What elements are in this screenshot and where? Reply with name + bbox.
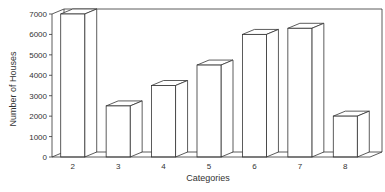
y-tick-label: 4000	[29, 71, 47, 80]
y-tick-label: 6000	[29, 30, 47, 39]
bar-6	[242, 29, 278, 157]
chart-canvas: 01000200030004000500060007000 2345678 Nu…	[0, 0, 385, 192]
x-tick-label: 7	[298, 162, 303, 171]
bar-front	[61, 14, 85, 157]
x-axis-label: Categories	[186, 173, 230, 183]
bar-side	[357, 111, 369, 157]
bar-3	[106, 101, 142, 157]
bar-front	[242, 34, 266, 157]
x-tick-label: 6	[252, 162, 257, 171]
y-tick-label: 2000	[29, 112, 47, 121]
x-tick-label: 5	[207, 162, 212, 171]
y-tick-label: 5000	[29, 51, 47, 60]
x-axis: 2345678	[52, 157, 370, 171]
bar-2	[61, 9, 97, 157]
y-axis: 01000200030004000500060007000	[29, 10, 52, 162]
bar-side	[221, 60, 233, 157]
x-tick-label: 2	[70, 162, 75, 171]
x-tick-label: 4	[161, 162, 166, 171]
bar-chart: 01000200030004000500060007000 2345678 Nu…	[0, 0, 385, 192]
bar-front	[197, 65, 221, 157]
bar-front	[288, 28, 312, 157]
floor-right-edge	[370, 152, 382, 157]
bar-front	[152, 86, 176, 158]
y-tick-label: 7000	[29, 10, 47, 19]
bar-7	[288, 23, 324, 157]
bar-4	[152, 81, 188, 158]
x-tick-label: 3	[116, 162, 121, 171]
bar-side	[312, 23, 324, 157]
y-tick-label: 1000	[29, 133, 47, 142]
y-axis-label: Number of Houses	[8, 51, 18, 127]
bar-8	[333, 111, 369, 157]
y-tick-label: 0	[43, 153, 48, 162]
y-tick-label: 3000	[29, 92, 47, 101]
bar-side	[130, 101, 142, 157]
bar-front	[333, 116, 357, 157]
bar-side	[176, 81, 188, 158]
bar-side	[266, 29, 278, 157]
bar-5	[197, 60, 233, 157]
x-tick-label: 8	[343, 162, 348, 171]
bar-front	[106, 106, 130, 157]
bars	[61, 9, 370, 157]
bar-side	[85, 9, 97, 157]
